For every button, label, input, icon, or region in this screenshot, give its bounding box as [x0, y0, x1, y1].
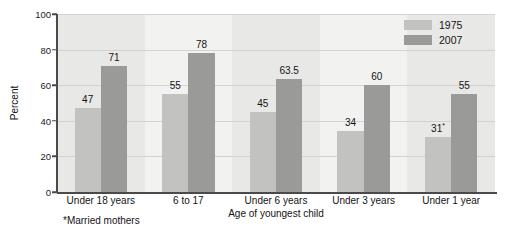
bar-value-label: 63.5: [279, 65, 298, 76]
y-tick-label: 80: [40, 44, 51, 55]
category-label: Under 3 years: [332, 195, 395, 206]
y-tick-label: 40: [40, 115, 51, 126]
bar-value-label: 55: [459, 80, 470, 91]
bar-value-label: 55: [170, 80, 181, 91]
y-tick-label: 100: [35, 9, 51, 20]
bar-1975-under-1-year: [425, 137, 451, 192]
y-tick-label: 20: [40, 151, 51, 162]
bar-value-label: 78: [196, 39, 207, 50]
bar-1975-under-18-years: [75, 108, 101, 192]
x-axis-line: [57, 192, 497, 194]
category-label: 6 to 17: [173, 195, 204, 206]
gridline: [57, 14, 495, 15]
legend-swatch-icon-2007: [404, 35, 432, 45]
legend-label-2007: 2007: [439, 34, 462, 46]
bar-value-label: 31*: [431, 123, 445, 134]
bar-1975-6-to-17: [162, 94, 188, 192]
legend: 1975 2007: [404, 19, 462, 46]
bar-value-label: 47: [82, 94, 93, 105]
bar-value-label: 71: [108, 52, 119, 63]
bar-value-label: 34: [345, 117, 356, 128]
bar-2007-under-3-years: [364, 85, 390, 192]
legend-label-1975: 1975: [439, 19, 462, 31]
bar-chart-figure: 020406080100 477155784563.5346031*55 Und…: [0, 0, 524, 237]
category-label: Under 18 years: [67, 195, 135, 206]
y-axis-line: [56, 14, 58, 193]
gridline: [57, 50, 495, 51]
bar-2007-under-6-years: [276, 79, 302, 192]
bar-2007-under-1-year: [451, 94, 477, 192]
bar-2007-under-18-years: [101, 66, 127, 192]
legend-item-2007: 2007: [404, 34, 462, 46]
footnote: *Married mothers: [63, 215, 140, 226]
bar-1975-under-6-years: [250, 112, 276, 192]
y-tick-label: 0: [46, 187, 51, 198]
y-tick-label: 60: [40, 80, 51, 91]
bar-2007-6-to-17: [188, 53, 214, 192]
y-axis-title: Percent: [9, 86, 20, 120]
category-label: Under 6 years: [245, 195, 308, 206]
bar-value-label: 45: [257, 98, 268, 109]
legend-item-1975: 1975: [404, 19, 462, 31]
bar-1975-under-3-years: [337, 131, 363, 192]
legend-swatch-icon-1975: [404, 20, 432, 30]
category-label: Under 1 year: [422, 195, 480, 206]
x-axis-title: Age of youngest child: [228, 208, 324, 219]
bar-value-label: 60: [371, 71, 382, 82]
